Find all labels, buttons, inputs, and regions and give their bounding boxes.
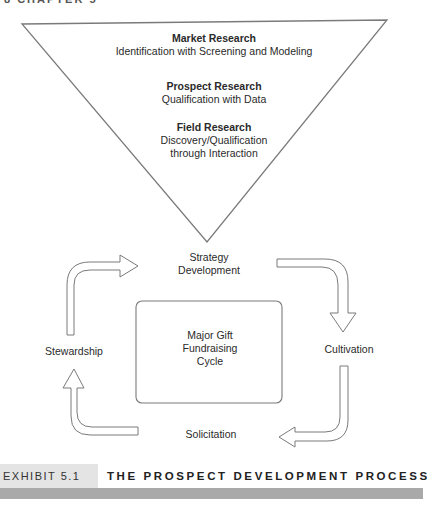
label-line1: Strategy (164, 251, 254, 264)
caption-divider-bar (0, 488, 423, 499)
funnel-level-market-research: Market Research Identification with Scre… (104, 32, 324, 58)
cycle-label-strategy-development: Strategy Development (164, 251, 254, 277)
cycle-label-solicitation: Solicitation (176, 428, 246, 441)
cycle-label-cultivation: Cultivation (314, 343, 384, 356)
arrow-strategy-to-cultivation (277, 259, 356, 332)
level-subtitle: Qualification with Data (134, 93, 294, 106)
funnel-level-prospect-research: Prospect Research Qualification with Dat… (134, 80, 294, 106)
label-line2: Development (164, 264, 254, 277)
cycle-label-stewardship: Stewardship (34, 345, 114, 358)
level-subtitle-line2: through Interaction (144, 147, 284, 160)
arrow-solicitation-to-stewardship (63, 369, 138, 435)
center-line1: Major Gift (160, 329, 260, 342)
level-title: Field Research (144, 121, 284, 134)
level-title: Market Research (104, 32, 324, 45)
arrow-stewardship-to-strategy (67, 255, 138, 335)
center-line3: Cycle (160, 355, 260, 368)
exhibit-tag: EXHIBIT 5.1 (0, 464, 98, 488)
arrow-cultivation-to-solicitation (279, 366, 348, 447)
level-title: Prospect Research (134, 80, 294, 93)
cycle-center-label: Major Gift Fundraising Cycle (160, 329, 260, 368)
funnel-level-field-research: Field Research Discovery/Qualification t… (144, 121, 284, 160)
center-line2: Fundraising (160, 342, 260, 355)
exhibit-title: THE PROSPECT DEVELOPMENT PROCESS (107, 464, 430, 488)
level-subtitle: Identification with Screening and Modeli… (104, 45, 324, 58)
level-subtitle-line1: Discovery/Qualification (144, 134, 284, 147)
